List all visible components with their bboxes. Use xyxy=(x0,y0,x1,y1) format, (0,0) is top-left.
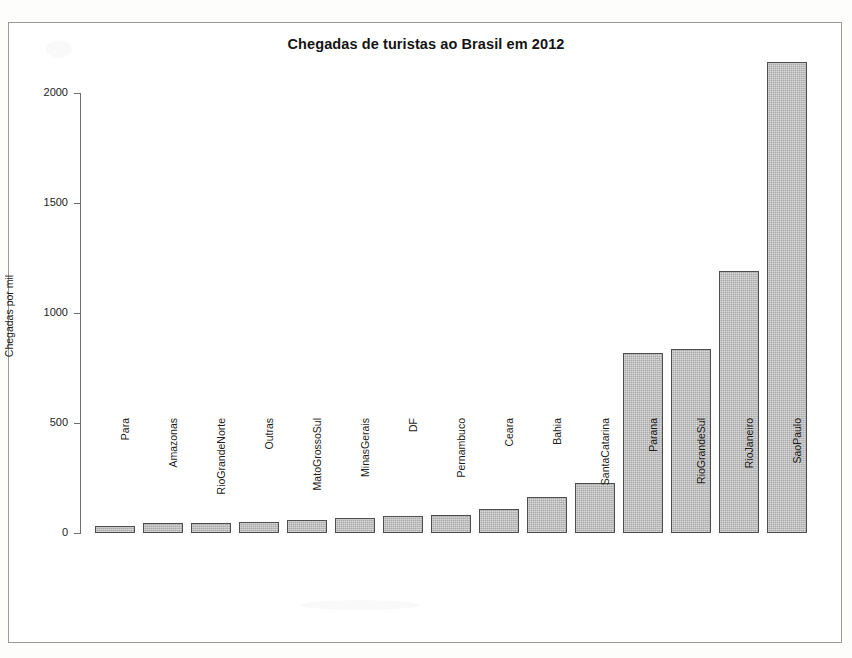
y-axis-title: Chegadas por mil xyxy=(3,186,15,446)
x-axis-label: Amazonas xyxy=(167,418,179,538)
x-axis-label: Pernambuco xyxy=(455,418,467,538)
y-axis-tick-label: 1000 xyxy=(24,306,68,318)
y-axis-tick-label-wrap: 1000 xyxy=(20,313,68,314)
chart-title: Chegadas de turistas ao Brasil em 2012 xyxy=(0,36,852,52)
y-axis-tick-label-wrap: 2000 xyxy=(20,93,68,94)
y-axis-tick xyxy=(74,423,80,424)
x-axis-label: DF xyxy=(407,418,419,538)
x-axis-label: RioGrandeSul xyxy=(695,418,707,538)
y-axis-tick xyxy=(74,93,80,94)
x-axis-label: MatoGrossoSul xyxy=(311,418,323,538)
x-axis-label: SantaCatarina xyxy=(599,418,611,538)
x-axis-label: MinasGerais xyxy=(359,418,371,538)
y-axis-tick-label: 0 xyxy=(24,526,68,538)
y-axis-tick-label: 2000 xyxy=(24,86,68,98)
y-axis-line xyxy=(80,93,81,534)
y-axis-tick-label: 500 xyxy=(24,416,68,428)
x-axis-label: SaoPaulo xyxy=(791,418,803,538)
y-axis-tick-label: 1500 xyxy=(24,196,68,208)
y-axis-tick xyxy=(74,533,80,534)
x-axis-label: Parana xyxy=(647,418,659,538)
x-axis-label: RioGrandeNorte xyxy=(215,418,227,538)
y-axis-tick xyxy=(74,203,80,204)
x-axis-label: Para xyxy=(119,418,131,538)
y-axis-tick-label-wrap: 0 xyxy=(20,533,68,534)
screenshot-page: Chegadas de turistas ao Brasil em 2012 0… xyxy=(0,0,852,658)
y-axis-tick-label-wrap: 500 xyxy=(20,423,68,424)
x-axis-label: Ceara xyxy=(503,418,515,538)
x-axis-label: Outras xyxy=(263,418,275,538)
x-axis-label: RioJaneiro xyxy=(743,418,755,538)
y-axis-tick xyxy=(74,313,80,314)
x-axis-label: Bahia xyxy=(551,418,563,538)
y-axis-tick-label-wrap: 1500 xyxy=(20,203,68,204)
